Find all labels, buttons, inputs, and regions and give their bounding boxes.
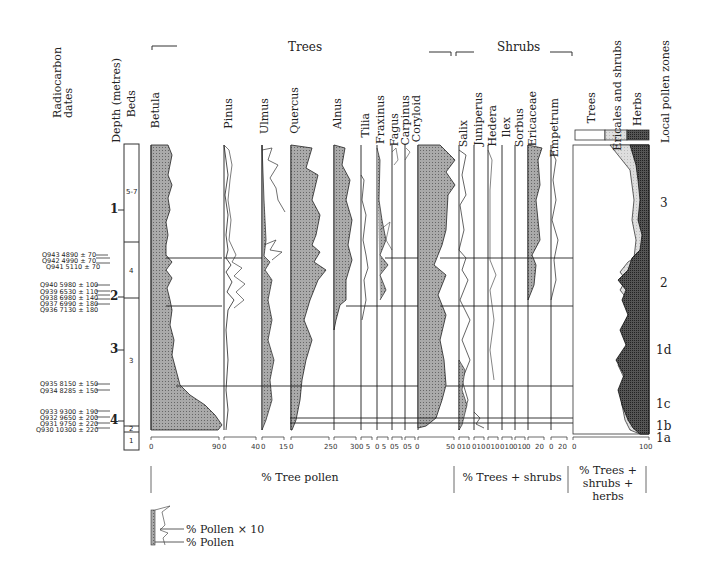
taxon-label-tilia: Tilia (360, 113, 371, 137)
local-pollen-zones-label: Local pollen zones (660, 40, 671, 143)
scale-salix: 010 (457, 443, 470, 451)
depth-tick-2: 2 (110, 289, 118, 303)
taxon-label-juniperus: Juniperus (473, 92, 484, 146)
radiocarbon-dates-label: Radiocarbon dates (52, 58, 78, 118)
taxon-label-salix: Salix (458, 120, 469, 147)
scale-coryloid-max: 50 (446, 443, 455, 451)
scale-pinus-max: 40 (251, 443, 260, 451)
zone-1c: 1c (656, 397, 670, 411)
shrubs-group-label: Shrubs (497, 40, 540, 54)
bed-1: 1 (129, 437, 133, 445)
taxon-label-fraxinus: Fraxinus (375, 95, 386, 144)
taxon-label-ericaceae: Ericaceae (527, 91, 538, 146)
scale-betula-max: 90 (212, 443, 221, 451)
zone-2: 2 (660, 276, 668, 290)
scale-ilex: 010 (500, 443, 513, 451)
depth-tick-1: 1 (110, 202, 118, 216)
scale-betula-min: 0 (149, 443, 153, 451)
legend-pollen-x10: % Pollen × 10 (186, 523, 264, 536)
radiocarbon-date: Q936 7130 ± 180 (40, 306, 98, 314)
taxon-label-empetrum: Empetrum (549, 98, 560, 157)
taxon-label-alnus: Alnus (332, 98, 343, 129)
axis-group-trees-shrubs: % Trees + shrubs (458, 471, 566, 484)
beds-label: Beds (126, 90, 137, 117)
scale-ulmus-max: 15 (279, 443, 288, 451)
bed-2: 2 (129, 425, 133, 433)
scale-juniperus: 010 (472, 443, 485, 451)
summary-label-herbs: Herbs (632, 92, 643, 126)
taxon-label-pinus: Pinus (223, 98, 234, 129)
summary-label-ericales: Ericales and shrubs (612, 40, 623, 151)
scale-quercus-min: 0 (289, 443, 293, 451)
scale-ulmus-min: 0 (261, 443, 265, 451)
scale-ericaceae: 0 20 (526, 443, 544, 451)
depth-axis-label: Depth (metres) (111, 58, 122, 143)
bed-5-7: 5-7 (126, 188, 137, 196)
zone-3: 3 (660, 196, 668, 210)
radiocarbon-date: Q930 10300 ± 220 (36, 426, 98, 434)
scale-pinus-min: 0 (222, 443, 226, 451)
taxon-label-hedera: Hedera (487, 105, 498, 146)
scale-summary-max: 100 (639, 443, 652, 451)
scale-carpinus: 05 (403, 443, 412, 451)
radiocarbon-date: Q941 5110 ± 70 (46, 263, 100, 271)
legend-pollen: % Pollen (186, 536, 234, 549)
axis-group-tree-pollen: % Tree pollen (250, 471, 350, 484)
taxon-label-ulmus: Ulmus (259, 98, 270, 134)
bed-3: 3 (129, 357, 133, 365)
scale-tilia: 0 5 (359, 443, 370, 451)
taxon-label-ilex: Ilex (501, 117, 512, 138)
scale-summary-min: 0 (572, 443, 576, 451)
scale-coryloid-min: 0 (415, 443, 419, 451)
scale-sorbus: 010 (513, 443, 526, 451)
axis-group-trees-shrubs-herbs: % Trees + shrubs + herbs (570, 464, 646, 503)
scale-alnus-max: 30 (350, 443, 359, 451)
zone-1a: 1a (656, 431, 671, 445)
taxon-label-betula: Betula (150, 92, 161, 128)
taxon-label-quercus: Quercus (289, 87, 300, 134)
radiocarbon-date: Q934 8285 ± 150 (40, 387, 98, 395)
taxon-label-coryloid: Coryloid (411, 95, 422, 142)
depth-tick-3: 3 (110, 342, 118, 356)
depth-tick-4: 4 (110, 413, 118, 427)
trees-group-label: Trees (288, 40, 322, 54)
scale-fagus: 05 (390, 443, 399, 451)
taxon-label-sorbus: Sorbus (514, 108, 525, 147)
scale-fraxinus: 0 5 (375, 443, 386, 451)
scale-hedera: 010 (486, 443, 499, 451)
scale-quercus-max: 25 (324, 443, 333, 451)
summary-label-trees: Trees (586, 92, 597, 123)
bed-4: 4 (129, 267, 133, 275)
zone-1d: 1d (656, 343, 671, 357)
scale-alnus-min: 0 (333, 443, 337, 451)
scale-empetrum: 0 20 (549, 443, 567, 451)
